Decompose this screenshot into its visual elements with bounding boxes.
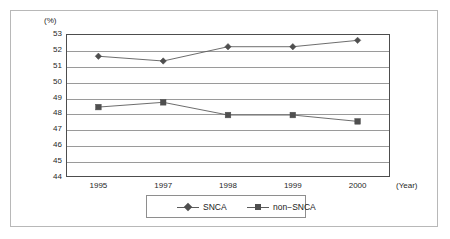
- series-line: [98, 102, 357, 121]
- data-point-square: [290, 112, 296, 118]
- x-axis-tick-label: 1999: [275, 181, 311, 190]
- x-axis-unit-label: (Year): [396, 181, 418, 190]
- legend-label: non−SNCA: [273, 202, 316, 212]
- legend-entry-non-snca[interactable]: non−SNCA: [247, 201, 316, 213]
- y-axis-tick-label: 52: [42, 46, 62, 54]
- chart-legend: SNCAnon−SNCA: [146, 195, 306, 218]
- data-point-square: [96, 104, 102, 110]
- y-axis-tick-label: 44: [42, 173, 62, 181]
- y-axis-tick-label: 46: [42, 141, 62, 149]
- y-axis-tick-label: 53: [42, 30, 62, 38]
- series-non-snca: [96, 100, 361, 125]
- legend-square-marker-icon: [247, 203, 269, 212]
- legend-diamond-marker-icon: [177, 203, 199, 212]
- y-axis-tick-label: 47: [42, 125, 62, 133]
- y-axis-tick-label: 51: [42, 62, 62, 70]
- data-point-diamond: [95, 53, 101, 59]
- x-axis-tick-label: 1997: [145, 181, 181, 190]
- series-snca: [95, 37, 361, 64]
- y-axis-tick-label: 49: [42, 94, 62, 102]
- data-point-diamond: [354, 37, 360, 43]
- series-layer: [66, 34, 390, 177]
- data-point-diamond: [225, 44, 231, 50]
- x-axis-tick-label: 1995: [80, 181, 116, 190]
- legend-marker: [255, 204, 261, 210]
- legend-entry-snca[interactable]: SNCA: [177, 201, 227, 213]
- data-point-square: [225, 112, 231, 118]
- y-axis-tick-label: 48: [42, 109, 62, 117]
- y-axis-tick-label: 50: [42, 78, 62, 86]
- data-point-square: [160, 100, 166, 106]
- x-axis-tick-label: 2000: [340, 181, 376, 190]
- y-axis-tick-label: 45: [42, 157, 62, 165]
- y-axis-tick-labels: 53525150494847464544: [42, 34, 62, 177]
- data-point-diamond: [160, 58, 166, 64]
- y-axis-unit-label: (%): [44, 16, 56, 25]
- data-point-diamond: [290, 44, 296, 50]
- chart-screenshot: (%) 53525150494847464544 199519971998199…: [0, 0, 450, 239]
- data-point-square: [355, 119, 361, 125]
- x-axis-tick-label: 1998: [210, 181, 246, 190]
- legend-marker: [184, 202, 192, 210]
- legend-label: SNCA: [203, 202, 227, 212]
